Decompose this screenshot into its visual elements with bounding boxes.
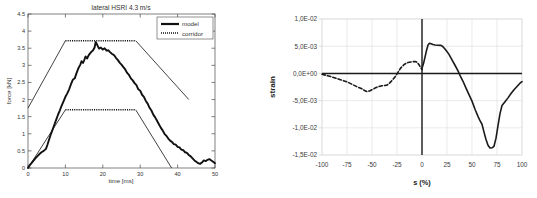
y-tick-labels-left: 00.511.522.533.544.5 [17,11,25,171]
y-axis-label-left: force [kN] [5,77,12,104]
series-group-right [322,19,522,155]
y-tick-label: 4 [22,28,25,34]
x-tick-labels-right: -100-75-50-250255075100 [316,161,528,168]
y-tick-label: -5,0E-03 [292,97,317,104]
y-tick-labels-right: 1,0E-025,0E-030,0E+00-5,0E-03-1,0E-02-1,… [292,15,317,158]
x-tick-label: 40 [174,171,180,177]
y-tick-label: 3.5 [17,45,25,51]
y-tick-label: 0 [22,165,25,171]
y-tick-label: 0.5 [17,148,25,154]
y-tick-label: 2.5 [17,79,25,85]
y-tick-label: -1,0E-02 [292,124,317,131]
x-axis-label-right: s (%) [413,178,431,187]
x-tick-label: -100 [316,161,329,168]
chart-panel-strain-s: 1,0E-025,0E-030,0E+00-5,0E-03-1,0E-02-1,… [266,0,537,198]
strain-s-plot: 1,0E-025,0E-030,0E+00-5,0E-03-1,0E-02-1,… [266,0,537,198]
y-axis-label-right: strain [268,76,277,98]
x-tick-label: 75 [493,161,501,168]
y-tick-label: 1.5 [17,114,25,120]
x-tick-label: 20 [100,171,106,177]
chart-panel-force-time: lateral HSRI 4.3 m/s 00.511.522.533.544.… [0,0,266,198]
y-tick-label: -1,5E-02 [292,151,317,158]
gridlines-right [319,19,522,155]
force-time-plot: lateral HSRI 4.3 m/s 00.511.522.533.544.… [0,0,266,198]
x-tick-label: 10 [62,171,68,177]
x-tick-label: 0 [26,171,29,177]
y-tick-label: 4.5 [17,11,25,17]
y-tick-label: 3 [22,62,25,68]
legend-label-corridor: corridor [182,30,203,37]
x-tick-label: 50 [468,161,476,168]
figure-container: lateral HSRI 4.3 m/s 00.511.522.533.544.… [0,0,537,198]
y-tick-label: 0,0E+00 [293,70,317,77]
legend-left: model corridor [157,17,213,39]
legend-label-model: model [182,20,199,27]
chart-title-left: lateral HSRI 4.3 m/s [92,4,152,11]
x-tick-label: -75 [342,161,352,168]
y-tick-label: 1 [22,131,25,137]
y-tick-label: 5,0E-03 [295,43,318,50]
x-tick-label: -50 [367,161,377,168]
x-tick-label: 0 [420,161,424,168]
x-tick-label: -25 [392,161,402,168]
x-tick-label: 30 [137,171,143,177]
y-tick-label: 1,0E-02 [295,15,318,22]
x-tick-label: 25 [443,161,451,168]
x-tick-label: 50 [212,171,218,177]
x-axis-label-left: time [ms] [108,177,133,184]
y-tick-label: 2 [22,97,25,103]
x-tick-label: 100 [517,161,528,168]
